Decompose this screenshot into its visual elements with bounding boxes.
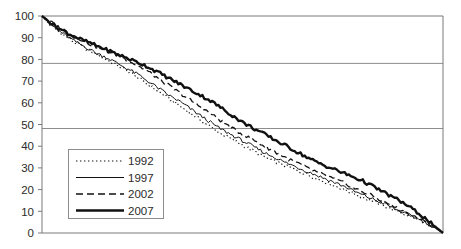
y-label-10: 10 — [21, 206, 34, 218]
legend-label-2007: 2007 — [128, 205, 154, 217]
y-label-30: 30 — [21, 162, 34, 174]
y-axis-labels: 0 10 20 30 40 50 60 70 80 90 100 — [15, 10, 34, 239]
y-label-90: 90 — [21, 32, 34, 44]
y-label-70: 70 — [21, 75, 34, 87]
legend: 1992 1997 2002 2007 — [69, 150, 164, 219]
y-label-0: 0 — [28, 227, 34, 239]
line-chart: 0 10 20 30 40 50 60 70 80 90 100 1992 — [0, 0, 461, 249]
y-label-60: 60 — [21, 97, 34, 109]
y-axis-ticks — [38, 16, 42, 233]
y-label-40: 40 — [21, 140, 34, 152]
y-label-100: 100 — [15, 10, 34, 22]
chart-canvas: 0 10 20 30 40 50 60 70 80 90 100 1992 — [0, 0, 461, 249]
legend-label-1997: 1997 — [128, 172, 154, 184]
y-label-20: 20 — [21, 184, 34, 196]
y-label-80: 80 — [21, 54, 34, 66]
y-label-50: 50 — [21, 119, 34, 131]
legend-label-1992: 1992 — [128, 155, 154, 167]
legend-label-2002: 2002 — [128, 188, 154, 200]
